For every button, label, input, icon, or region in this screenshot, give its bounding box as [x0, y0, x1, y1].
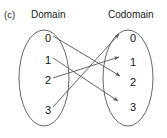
domain-title: Domain [31, 10, 65, 20]
arrow-3-to-0 [53, 34, 119, 107]
codomain-element-1: 1 [128, 57, 138, 68]
codomain-title: Codomain [108, 10, 154, 20]
function-mapping-figure: (c) Domain Codomain 0 1 2 3 0 1 2 3 [0, 0, 167, 138]
domain-element-1: 1 [43, 55, 53, 66]
domain-element-3: 3 [43, 105, 53, 116]
codomain-element-3: 3 [128, 102, 138, 113]
codomain-element-2: 2 [128, 77, 138, 88]
arrow-2-to-1 [53, 57, 119, 78]
domain-element-0: 0 [43, 33, 53, 44]
arrow-1-to-3 [53, 58, 118, 101]
part-label: (c) [4, 10, 15, 20]
diagram-canvas [0, 0, 167, 138]
domain-element-2: 2 [43, 75, 53, 86]
codomain-element-0: 0 [128, 33, 138, 44]
